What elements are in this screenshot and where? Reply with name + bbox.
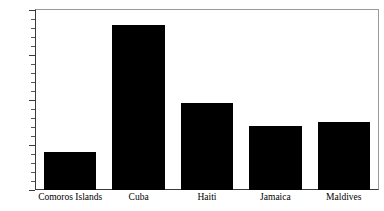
y-axis-minor-tick [31, 154, 35, 155]
y-axis-tick [29, 55, 35, 56]
y-axis-minor-tick [31, 109, 35, 110]
y-axis-minor-tick [31, 181, 35, 182]
y-axis-minor-tick [31, 82, 35, 83]
y-axis-minor-tick [31, 163, 35, 164]
x-axis-tick-label: Comoros Islands [38, 192, 102, 202]
y-axis-minor-tick [31, 46, 35, 47]
x-axis-tick-label: Haiti [198, 192, 217, 202]
y-axis-minor-tick [31, 28, 35, 29]
y-axis-minor-tick [31, 172, 35, 173]
y-axis-minor-tick [31, 37, 35, 38]
y-axis-minor-tick [31, 136, 35, 137]
bar [112, 25, 164, 190]
y-axis-tick [29, 145, 35, 146]
y-axis-minor-tick [31, 73, 35, 74]
y-axis-minor-tick [31, 91, 35, 92]
bar [44, 152, 96, 190]
y-axis-minor-tick [31, 118, 35, 119]
bar-series [36, 10, 378, 190]
x-axis-tick-label: Jamaica [260, 192, 291, 202]
bar-chart: 02,5005,0007,50010,000 Comoros IslandsCu… [0, 0, 384, 211]
y-axis: 02,5005,0007,50010,000 [0, 0, 35, 211]
y-axis-minor-tick [31, 127, 35, 128]
x-axis-tick-label: Maldives [326, 192, 361, 202]
y-axis-minor-tick [31, 19, 35, 20]
y-axis-tick [29, 10, 35, 11]
bar [249, 126, 301, 190]
bar [181, 103, 233, 190]
x-axis: Comoros IslandsCubaHaitiJamaicaMaldives [36, 192, 378, 211]
bar [318, 122, 370, 190]
y-axis-minor-tick [31, 64, 35, 65]
y-axis-tick [29, 100, 35, 101]
x-axis-tick-label: Cuba [129, 192, 149, 202]
y-axis-tick [29, 190, 35, 191]
